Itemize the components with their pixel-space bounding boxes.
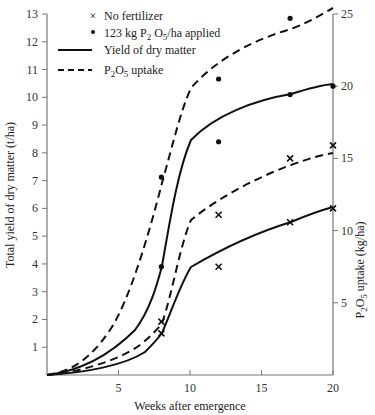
right-tick-label: 20 [341,79,353,93]
data-point-dot [216,139,221,144]
x-axis-label: Weeks after emergence [134,399,245,413]
yield-unfertilized-line [47,207,333,375]
left-tick-label: 3 [32,285,38,299]
x-axis: 5101520 [116,370,340,395]
left-tick-label: 2 [32,312,38,326]
data-point-dot [288,16,293,21]
data-point-cross [216,212,222,218]
right-tick-label: 15 [341,151,353,165]
left-tick-label: 7 [32,174,38,188]
data-point-dot [159,264,164,269]
x-tick-label: 20 [327,381,339,395]
yield-fertilized-line [47,84,333,375]
left-tick-label: 6 [32,201,38,215]
legend-cross-marker: × [90,9,97,23]
left-tick-label: 10 [26,90,38,104]
data-point-dot [288,92,293,97]
left-tick-label: 4 [32,257,38,271]
left-y-axis: 12345678910111213 [26,7,47,354]
left-tick-label: 8 [32,146,38,160]
legend-dot-marker [91,30,95,34]
legend-label-uptake: P2O5 uptake [104,63,163,79]
series-lines [47,8,333,375]
right-y-axis-label: P2O5 uptake (kg/ha) [353,221,369,318]
left-tick-label: 13 [26,7,38,21]
right-tick-label: 25 [341,7,353,21]
x-tick-label: 15 [256,381,268,395]
left-tick-label: 12 [26,35,38,49]
data-point-dot [330,84,335,89]
right-tick-label: 5 [341,296,347,310]
left-tick-label: 5 [32,229,38,243]
legend-label-no-fertilizer: No fertilizer [104,9,163,23]
legend-label-fertilized: 123 kg P2 O5/ha applied [104,26,220,42]
x-tick-label: 5 [116,381,122,395]
chart: 12345678910111213 510152025 5101520 × No… [0,0,375,415]
x-tick-label: 10 [184,381,196,395]
data-point-dot [159,175,164,180]
left-tick-label: 1 [32,340,38,354]
left-tick-label: 11 [26,63,38,77]
left-tick-label: 9 [32,118,38,132]
legend: × No fertilizer 123 kg P2 O5/ha applied … [58,9,220,79]
data-point-cross [287,155,293,161]
data-point-dot [216,76,221,81]
axes [47,14,333,375]
legend-label-yield: Yield of dry matter [104,43,196,57]
p-uptake-unfertilized-line [47,153,333,375]
right-tick-label: 10 [341,224,353,238]
p-uptake-fertilized-line [47,8,333,375]
right-y-axis: 510152025 [333,7,353,310]
left-y-axis-label: Total yield of dry matter (t/ha) [3,122,17,268]
data-point-cross [216,264,222,270]
